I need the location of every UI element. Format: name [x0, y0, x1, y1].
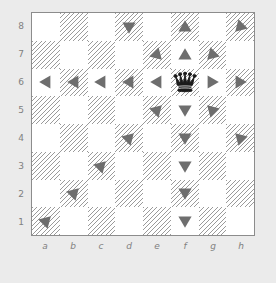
square-e3[interactable]	[143, 152, 171, 180]
square-h7[interactable]	[226, 41, 254, 69]
square-g2[interactable]	[199, 180, 227, 208]
square-e8[interactable]	[143, 13, 171, 41]
square-d5[interactable]	[115, 96, 143, 124]
black-queen-piece[interactable]	[172, 69, 198, 95]
square-f2[interactable]	[171, 180, 199, 208]
move-marker-up-right-icon	[91, 156, 111, 176]
rank-label-8: 8	[13, 12, 29, 40]
square-d7[interactable]	[115, 41, 143, 69]
move-marker-up-right-icon	[147, 100, 167, 120]
move-marker-left-icon	[119, 72, 139, 92]
square-g8[interactable]	[199, 13, 227, 41]
rank-label-5: 5	[13, 96, 29, 124]
rank-label-7: 7	[13, 40, 29, 68]
square-d1[interactable]	[115, 207, 143, 235]
square-g5[interactable]	[199, 96, 227, 124]
move-marker-down-icon	[175, 128, 195, 148]
square-a8[interactable]	[32, 13, 60, 41]
rank-label-2: 2	[13, 180, 29, 208]
square-a7[interactable]	[32, 41, 60, 69]
square-c2[interactable]	[88, 180, 116, 208]
square-c6[interactable]	[88, 69, 116, 97]
square-e1[interactable]	[143, 207, 171, 235]
move-marker-right-icon	[202, 72, 222, 92]
file-label-f: f	[171, 238, 199, 254]
file-label-a: a	[31, 238, 59, 254]
move-marker-left-icon	[64, 72, 84, 92]
square-g3[interactable]	[199, 152, 227, 180]
rank-label-3: 3	[13, 152, 29, 180]
square-h4[interactable]	[226, 124, 254, 152]
square-b5[interactable]	[60, 96, 88, 124]
square-d8[interactable]	[115, 13, 143, 41]
file-label-h: h	[227, 238, 255, 254]
file-label-g: g	[199, 238, 227, 254]
square-e5[interactable]	[143, 96, 171, 124]
file-label-c: c	[87, 238, 115, 254]
move-marker-down-left-icon	[230, 17, 250, 37]
chess-diagram: 87654321 abcdefgh	[0, 0, 276, 283]
square-b3[interactable]	[60, 152, 88, 180]
move-marker-down-right-icon	[147, 45, 167, 65]
move-marker-right-icon	[230, 72, 250, 92]
square-d6[interactable]	[115, 69, 143, 97]
square-e2[interactable]	[143, 180, 171, 208]
square-e7[interactable]	[143, 41, 171, 69]
move-marker-down-icon	[175, 211, 195, 231]
square-b2[interactable]	[60, 180, 88, 208]
square-d2[interactable]	[115, 180, 143, 208]
square-a2[interactable]	[32, 180, 60, 208]
square-c4[interactable]	[88, 124, 116, 152]
board-grid	[32, 13, 254, 235]
square-e6[interactable]	[143, 69, 171, 97]
square-h6[interactable]	[226, 69, 254, 97]
move-marker-up-icon	[175, 45, 195, 65]
square-b7[interactable]	[60, 41, 88, 69]
square-h8[interactable]	[226, 13, 254, 41]
square-h1[interactable]	[226, 207, 254, 235]
square-b1[interactable]	[60, 207, 88, 235]
square-h3[interactable]	[226, 152, 254, 180]
rank-label-6: 6	[13, 68, 29, 96]
square-d3[interactable]	[115, 152, 143, 180]
chessboard[interactable]	[31, 12, 255, 236]
square-b4[interactable]	[60, 124, 88, 152]
square-c3[interactable]	[88, 152, 116, 180]
move-marker-down-icon	[175, 183, 195, 203]
square-f7[interactable]	[171, 41, 199, 69]
move-marker-down-icon	[175, 156, 195, 176]
square-f6[interactable]	[171, 69, 199, 97]
square-g1[interactable]	[199, 207, 227, 235]
square-a4[interactable]	[32, 124, 60, 152]
square-a1[interactable]	[32, 207, 60, 235]
move-marker-up-right-icon	[119, 128, 139, 148]
square-g6[interactable]	[199, 69, 227, 97]
square-g4[interactable]	[199, 124, 227, 152]
square-e4[interactable]	[143, 124, 171, 152]
square-h2[interactable]	[226, 180, 254, 208]
rank-label-4: 4	[13, 124, 29, 152]
square-f8[interactable]	[171, 13, 199, 41]
square-a3[interactable]	[32, 152, 60, 180]
square-f3[interactable]	[171, 152, 199, 180]
square-c5[interactable]	[88, 96, 116, 124]
move-marker-down-icon	[119, 17, 139, 37]
square-f5[interactable]	[171, 96, 199, 124]
move-marker-up-left-icon	[202, 100, 222, 120]
square-a6[interactable]	[32, 69, 60, 97]
square-c1[interactable]	[88, 207, 116, 235]
square-d4[interactable]	[115, 124, 143, 152]
file-label-e: e	[143, 238, 171, 254]
square-c7[interactable]	[88, 41, 116, 69]
file-label-b: b	[59, 238, 87, 254]
move-marker-up-left-icon	[230, 128, 250, 148]
square-f4[interactable]	[171, 124, 199, 152]
square-a5[interactable]	[32, 96, 60, 124]
file-label-d: d	[115, 238, 143, 254]
square-c8[interactable]	[88, 13, 116, 41]
square-b6[interactable]	[60, 69, 88, 97]
square-f1[interactable]	[171, 207, 199, 235]
square-h5[interactable]	[226, 96, 254, 124]
square-b8[interactable]	[60, 13, 88, 41]
square-g7[interactable]	[199, 41, 227, 69]
